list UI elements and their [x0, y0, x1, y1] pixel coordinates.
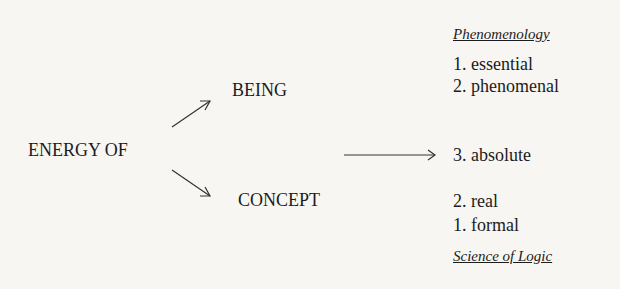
science-of-logic-heading: Science of Logic: [453, 246, 552, 266]
item-real: 2. real: [453, 191, 498, 211]
item-phenomenal: 2. phenomenal: [453, 76, 559, 96]
concept-label: CONCEPT: [238, 190, 320, 210]
arrow-to-being: [172, 101, 210, 127]
being-label: BEING: [232, 80, 287, 100]
item-absolute: 3. absolute: [453, 145, 531, 165]
arrow-to-absolute: [344, 150, 435, 160]
arrow-to-concept: [172, 170, 210, 196]
item-formal: 1. formal: [453, 215, 519, 235]
phenomenology-heading: Phenomenology: [453, 24, 550, 44]
item-essential: 1. essential: [453, 54, 533, 74]
energy-of-label: ENERGY OF: [28, 140, 128, 160]
